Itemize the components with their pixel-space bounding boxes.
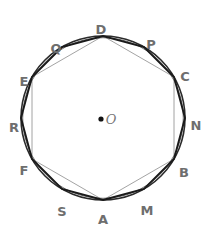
center-label-o: O [106, 113, 117, 126]
vertex-label-a: A [98, 213, 108, 226]
vertex-label-c: C [180, 70, 190, 83]
vertex-label-p: P [146, 38, 156, 51]
center-point-dot [98, 116, 103, 121]
vertex-label-d: D [96, 23, 107, 36]
vertex-label-e: E [20, 75, 29, 88]
vertex-label-f: F [20, 164, 29, 177]
vertex-label-n: N [191, 119, 202, 132]
vertex-label-b: B [179, 166, 189, 179]
vertex-label-m: M [141, 204, 154, 217]
vertex-label-r: R [9, 121, 19, 134]
vertex-label-s: S [57, 205, 66, 218]
vertex-label-q: Q [50, 42, 61, 55]
geometry-figure: O A M B N C P D Q E R F S [0, 0, 208, 236]
